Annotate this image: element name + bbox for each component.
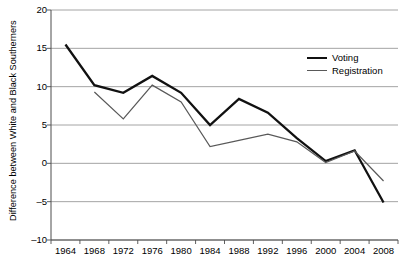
gridlines: [51, 10, 398, 240]
x-tick-label: 1980: [171, 246, 192, 256]
x-tick-label: 1964: [55, 246, 76, 256]
x-tick-label: 2000: [315, 246, 336, 256]
x-axis-tick-marks: [51, 240, 398, 244]
legend-swatch-voting: [307, 57, 327, 59]
x-tick-label: 1992: [257, 246, 278, 256]
x-tick-label: 1972: [113, 246, 134, 256]
chart-legend: Voting Registration: [307, 51, 405, 79]
x-tick-label: 2008: [373, 246, 394, 256]
legend-item-registration: Registration: [307, 64, 405, 77]
x-tick-label: 1984: [199, 246, 220, 256]
x-tick-label: 1988: [228, 246, 249, 256]
legend-label-registration: Registration: [332, 64, 383, 77]
line-chart: Difference between White and Black South…: [0, 0, 411, 270]
legend-label-voting: Voting: [332, 51, 358, 64]
x-tick-label: 1968: [84, 246, 105, 256]
x-tick-label: 2004: [344, 246, 365, 256]
legend-item-voting: Voting: [307, 51, 405, 64]
x-tick-label: 1996: [286, 246, 307, 256]
plot-area: [0, 0, 411, 270]
x-axis-tick-labels: 1964196819721976198019841988199219962000…: [51, 246, 398, 264]
y-axis-tick-marks: [47, 10, 51, 240]
x-tick-label: 1976: [142, 246, 163, 256]
legend-swatch-registration: [307, 70, 327, 71]
